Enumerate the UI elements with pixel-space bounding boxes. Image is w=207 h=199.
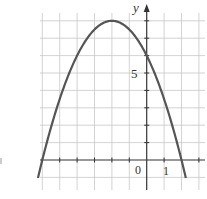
origin-label: 0 [135,163,141,177]
x-tick-label-1: 1 [163,164,169,178]
axes [40,4,205,190]
y-tick-label-5: 5 [131,66,138,81]
parabola-chart: y 0 1 5 [0,0,207,199]
grid [40,13,205,190]
y-axis-label: y [131,0,139,15]
edge-artifact [0,158,2,164]
